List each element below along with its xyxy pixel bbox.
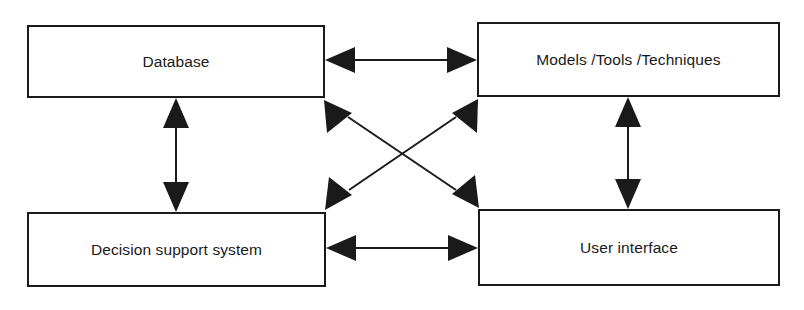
node-database-label: Database	[142, 53, 209, 70]
diagram-canvas: Database Models /Tools /Techniques Decis…	[0, 0, 804, 310]
node-decision-support-system-label: Decision support system	[91, 241, 262, 258]
node-models-tools-techniques[interactable]: Models /Tools /Techniques	[477, 22, 780, 97]
edge-database-models[interactable]	[325, 47, 477, 73]
node-models-tools-techniques-label: Models /Tools /Techniques	[536, 51, 720, 68]
node-database[interactable]: Database	[27, 25, 325, 98]
node-decision-support-system[interactable]: Decision support system	[27, 212, 326, 287]
edge-models-user-interface[interactable]	[615, 97, 641, 209]
edge-database-dss[interactable]	[163, 98, 189, 212]
edge-dss-user-interface[interactable]	[326, 235, 478, 261]
node-user-interface-label: User interface	[580, 239, 678, 256]
node-user-interface[interactable]: User interface	[478, 209, 780, 286]
